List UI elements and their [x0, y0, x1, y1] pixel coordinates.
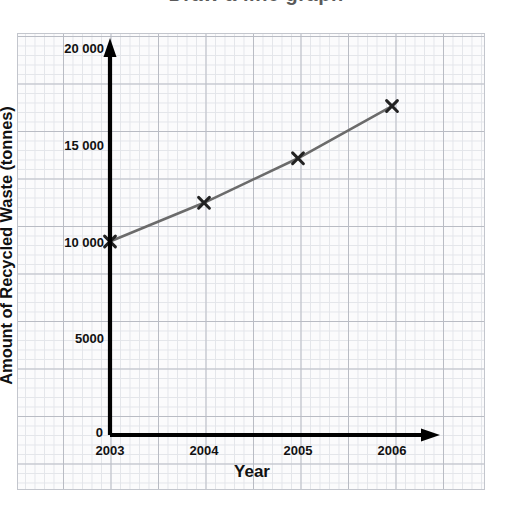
data-point-marker: [199, 197, 210, 208]
chart-page: Draw a line graph 500010 00015 00020 000…: [0, 0, 512, 518]
x-axis-tick-label: 2006: [378, 443, 407, 458]
data-point-marker: [293, 153, 304, 164]
origin-tick-label: 0: [83, 425, 103, 440]
data-series-group: [105, 101, 398, 247]
y-axis-arrowhead: [104, 38, 117, 57]
y-axis-tick-label: 10 000: [38, 234, 104, 249]
y-axis-tick-label: 5000: [38, 331, 104, 346]
y-axis-title: Amount of Recycled Waste (tonnes): [0, 106, 16, 384]
y-axis-tick-label: 20 000: [38, 41, 104, 56]
data-point-marker: [387, 101, 398, 112]
x-axis-tick-label: 2004: [190, 443, 219, 458]
x-axis-tick-label: 2005: [284, 443, 313, 458]
y-axis-tick-label: 15 000: [38, 137, 104, 152]
x-axis-arrowhead: [421, 429, 440, 442]
x-axis-title: Year: [234, 462, 270, 482]
axes-group: [104, 38, 441, 442]
data-line: [110, 106, 392, 241]
x-axis-tick-label: 2003: [96, 443, 125, 458]
line-chart-plot: [0, 0, 512, 518]
